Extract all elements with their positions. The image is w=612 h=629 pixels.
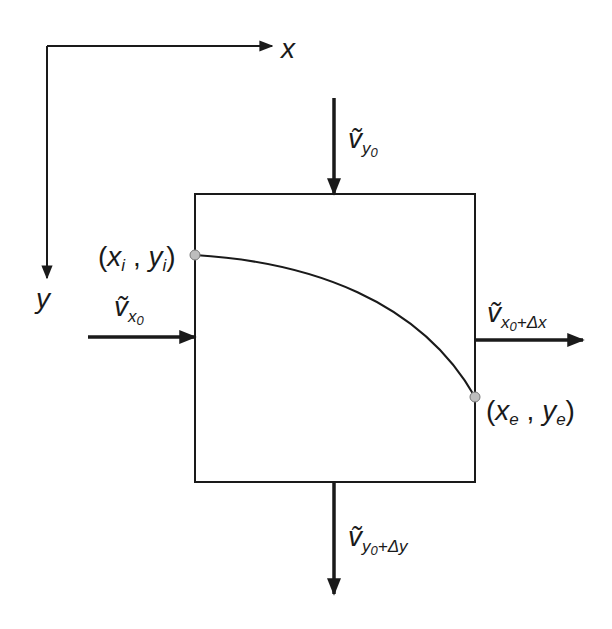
exit-point-label: (xe , ye) xyxy=(486,395,575,429)
control-volume-diagram: x y (xi , yi) (xe , ye) ṽy0 ṽx0 ṽx0+Δx ṽ… xyxy=(0,0,612,629)
control-volume-box xyxy=(195,194,475,482)
entry-point-label: (xi , yi) xyxy=(98,241,176,275)
top-velocity-label: ṽy0 xyxy=(348,123,379,160)
exit-point xyxy=(470,392,480,402)
x-axis-label: x xyxy=(279,33,296,64)
trajectory-curve xyxy=(195,255,475,397)
left-velocity-label: ṽx0 xyxy=(114,291,145,328)
y-axis-label: y xyxy=(34,283,52,314)
bottom-velocity-label: ṽy0+Δy xyxy=(348,521,409,558)
right-velocity-label: ṽx0+Δx xyxy=(487,297,547,334)
entry-point xyxy=(190,250,200,260)
